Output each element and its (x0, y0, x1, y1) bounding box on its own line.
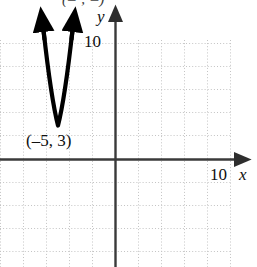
y-axis-label: y (97, 8, 105, 25)
parabola-right-arrow (71, 27, 73, 40)
x-axis-tick-10: 10 (210, 166, 227, 183)
clipped-header-text: (– , –) (62, 0, 192, 7)
vertex-point-label: (–5, 3) (26, 132, 71, 149)
y-axis-tick-10: 10 (84, 33, 101, 50)
parabola-left-arrow (43, 27, 45, 40)
x-axis-label: x (239, 166, 247, 183)
